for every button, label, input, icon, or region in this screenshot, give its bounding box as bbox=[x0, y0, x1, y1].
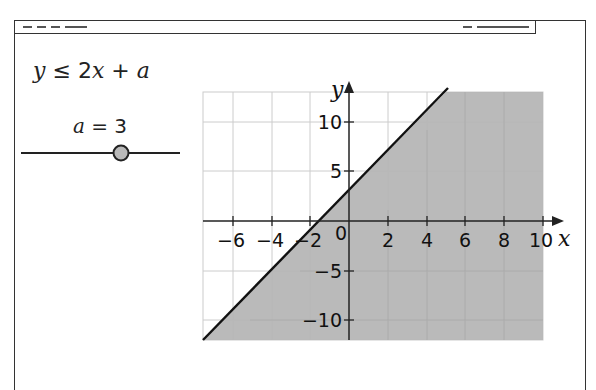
x-tick-label: −6 bbox=[217, 229, 245, 251]
y-axis-arrow-icon bbox=[344, 81, 354, 93]
y-tick-label: 10 bbox=[318, 111, 342, 133]
x-tick-label: −4 bbox=[256, 229, 284, 251]
x-axis-label: x bbox=[558, 226, 571, 251]
x-tick-label: 10 bbox=[529, 229, 553, 251]
y-tick-label: −10 bbox=[302, 309, 342, 331]
y-tick-label: −5 bbox=[314, 260, 342, 282]
x-tick-label: 6 bbox=[459, 229, 471, 251]
x-axis-arrow-icon bbox=[552, 216, 564, 226]
y-axis-label: y bbox=[330, 77, 344, 102]
parameter-slider[interactable] bbox=[21, 146, 180, 161]
slider-knob[interactable] bbox=[114, 146, 129, 161]
y-tick-label: 5 bbox=[330, 160, 342, 182]
x-tick-label: −2 bbox=[294, 229, 322, 251]
x-tick-label: 8 bbox=[498, 229, 510, 251]
origin-label: 0 bbox=[335, 222, 347, 244]
x-tick-label: 2 bbox=[382, 229, 394, 251]
solution-region bbox=[203, 92, 543, 340]
x-tick-label: 4 bbox=[421, 229, 433, 251]
